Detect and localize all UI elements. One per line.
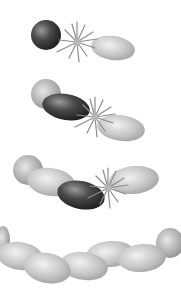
stage-2: [31, 79, 147, 144]
starburst-icon: [57, 22, 97, 62]
polymerization-diagram: [0, 0, 181, 297]
active-unit-dark: [31, 20, 61, 50]
stage-3: [13, 155, 160, 214]
stage-4: [0, 226, 181, 288]
monomer-light: [108, 164, 160, 196]
monomer-light: [90, 33, 137, 63]
stage-1: [31, 20, 136, 63]
